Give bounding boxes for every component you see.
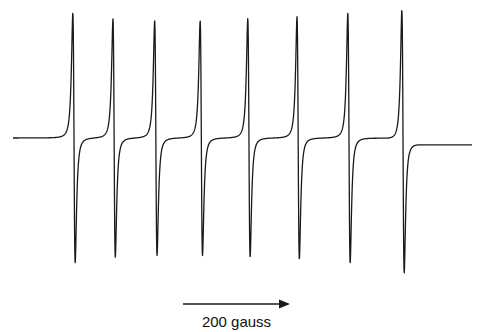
hyperfine-line-markers xyxy=(74,7,403,270)
field-scale-bar: 200 gauss xyxy=(183,300,290,331)
scale-bar-label: 200 gauss xyxy=(202,313,271,330)
epr-spectrum-chart: 200 gauss xyxy=(0,0,480,332)
scale-bar-arrowhead-icon xyxy=(279,300,290,309)
